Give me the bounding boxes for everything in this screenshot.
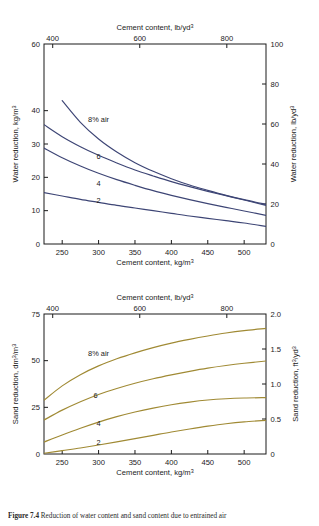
curve-2 [44,420,266,453]
curve-label: 6 [97,152,101,161]
x-axis-title: Cement content, kg/m3 [116,258,193,267]
x-top-tick-label: 400 [46,34,59,43]
y-right-axis-title: Water reduction, lb/yd3 [289,106,298,183]
x-tick-label: 450 [201,458,214,467]
chart-water-reduction: 2503003504004505004006008000102030406002… [0,4,319,272]
x-tick-label: 400 [165,248,178,257]
y-right-axis-title: Sand reduction, ft3/yd3 [291,346,300,422]
x-tick-label: 300 [92,248,105,257]
y-tick-label: 30 [32,140,40,149]
x-tick-label: 450 [201,248,214,257]
figure-caption: Figure 7.4 Reduction of water content an… [8,512,313,525]
y-tick-label: 60 [32,40,40,49]
x-top-tick-label: 800 [220,304,233,313]
x-tick-label: 350 [129,458,142,467]
y-tick-label: 10 [32,206,40,215]
curve-label: 6 [94,391,98,400]
y-right-tick-label: 0 [271,240,275,249]
y-tick-label: 0 [36,450,40,459]
x-top-tick-label: 400 [46,304,59,313]
curves-group [44,328,266,453]
x-top-axis-title: Cement content, lb/yd3 [117,23,194,32]
curve-4 [44,148,266,215]
curve-label: 2 [97,196,101,205]
y-right-tick-label: 1.5 [271,345,282,354]
y-tick-label: 75 [32,310,40,319]
x-axis-title: Cement content, kg/m3 [116,468,193,477]
sand-reduction-plot: 250300350400450500400600800025507500.51.… [0,276,319,508]
y-right-tick-label: 80 [271,80,279,89]
figure-caption-text: Reduction of water content and sand cont… [41,512,227,520]
x-tick-label: 250 [56,458,69,467]
figure-caption-label: Figure 7.4 [8,512,39,520]
x-tick-label: 500 [238,248,251,257]
chart-sand-reduction: 250300350400450500400600800025507500.51.… [0,276,319,508]
x-tick-label: 500 [238,458,251,467]
y-right-tick-label: 0 [271,450,275,459]
curve-label: 8% air [88,115,109,124]
curve-6 [44,361,266,420]
y-tick-label: 50 [32,356,40,365]
y-tick-label: 25 [32,403,40,412]
x-tick-label: 350 [129,248,142,257]
x-top-tick-label: 600 [133,34,146,43]
y-axis-title: Sand reduction, dm3/m3 [11,344,20,424]
curves-group [44,101,266,227]
y-right-tick-label: 0.5 [271,415,282,424]
x-tick-label: 400 [165,458,178,467]
figure-container: 2503003504004505004006008000102030406002… [0,0,319,526]
y-right-tick-label: 100 [271,40,284,49]
y-tick-label: 0 [36,240,40,249]
y-tick-label: 20 [32,173,40,182]
x-top-tick-label: 800 [220,34,233,43]
y-right-tick-label: 20 [271,200,279,209]
curve-label: 8% air [88,349,109,358]
curve-label: 2 [97,438,101,447]
plot-frame [44,44,266,244]
y-tick-label: 40 [32,106,40,115]
water-reduction-plot: 2503003504004505004006008000102030406002… [0,4,319,272]
y-right-tick-label: 2.0 [271,310,282,319]
curve-label: 4 [97,419,101,428]
x-top-tick-label: 600 [133,304,146,313]
x-top-axis-title: Cement content, lb/yd3 [117,293,194,302]
y-right-tick-label: 1.0 [271,380,282,389]
plot-frame [44,314,266,454]
y-right-tick-label: 60 [271,120,279,129]
y-right-tick-label: 40 [271,160,279,169]
x-tick-label: 250 [56,248,69,257]
curve-label: 4 [97,179,101,188]
x-tick-label: 300 [92,458,105,467]
y-axis-title: Water reduction, kg/m3 [11,105,20,182]
